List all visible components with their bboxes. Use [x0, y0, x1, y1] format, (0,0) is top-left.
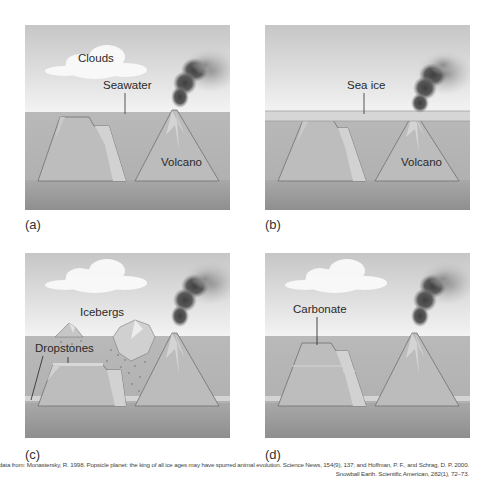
- panel-d: Carbonate: [265, 253, 470, 438]
- citation-line-1: (a–d) data from: Monastersky, R. 1998. P…: [0, 461, 469, 468]
- annotation-volcano: Volcano: [401, 156, 442, 168]
- panel-label-d: (d): [265, 447, 281, 462]
- citation-line-2: Snowball Earth. Scientific American, 282…: [336, 470, 469, 477]
- panel-c: Icebergs Dropstones: [25, 253, 230, 438]
- panel-d-illustration: [265, 253, 470, 438]
- panel-label-c: (c): [25, 447, 40, 462]
- annotation-seawater: Seawater: [103, 79, 152, 91]
- annotation-volcano: Volcano: [161, 156, 202, 168]
- panel-a-illustration: [25, 25, 230, 210]
- panel-b: Sea ice Volcano: [265, 25, 470, 210]
- annotation-clouds: Clouds: [78, 52, 114, 64]
- panel-b-illustration: [265, 25, 470, 210]
- annotation-sea-ice: Sea ice: [347, 79, 385, 91]
- annotation-carbonate: Carbonate: [293, 303, 347, 315]
- sea-ice-layer: [265, 111, 470, 121]
- annotation-icebergs: Icebergs: [80, 306, 124, 318]
- panel-label-b: (b): [265, 217, 281, 232]
- annotation-dropstones: Dropstones: [35, 342, 94, 354]
- panel-a: Clouds Seawater Volcano: [25, 25, 230, 210]
- panel-label-a: (a): [25, 217, 41, 232]
